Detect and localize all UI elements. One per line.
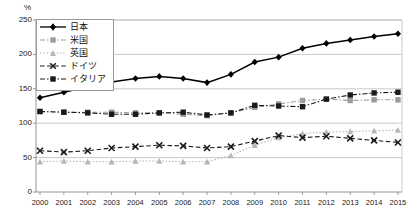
legend-swatch-japan: [39, 21, 67, 33]
legend-item-usa: 米国: [37, 33, 113, 46]
legend-swatch-uk: [39, 47, 67, 59]
legend-label-italy: イタリア: [67, 73, 106, 85]
y-tick-label: 250: [2, 15, 32, 24]
series-5: [37, 90, 400, 118]
series-2: [37, 96, 400, 118]
y-tick-label: 150: [2, 84, 32, 93]
legend-item-japan: 日本: [37, 20, 113, 33]
x-tick-label: 2015: [384, 198, 410, 207]
legend-label-usa: 米国: [67, 34, 88, 46]
legend-label-japan: 日本: [67, 21, 88, 33]
y-tick-label: 200: [2, 49, 32, 58]
chart-legend: 日本 米国 英国 ドイツ: [36, 19, 114, 91]
legend-swatch-italy: [39, 73, 67, 85]
legend-item-italy: イタリア: [37, 72, 113, 85]
y-tick-label: 0: [2, 187, 32, 196]
line-chart: % 日本 米国 英国: [0, 0, 410, 224]
series-3: [37, 127, 401, 164]
y-tick-label: 50: [2, 153, 32, 162]
legend-label-germany: ドイツ: [67, 60, 97, 72]
legend-item-germany: ドイツ: [37, 59, 113, 72]
legend-item-uk: 英国: [37, 46, 113, 59]
series-4: [37, 133, 401, 156]
y-tick-label: 100: [2, 118, 32, 127]
legend-swatch-germany: [39, 60, 67, 72]
legend-swatch-usa: [39, 34, 67, 46]
legend-label-uk: 英国: [67, 47, 88, 59]
